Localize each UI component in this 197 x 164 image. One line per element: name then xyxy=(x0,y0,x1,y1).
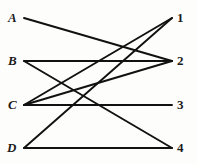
node-label-b: B xyxy=(8,54,17,67)
node-label-3: 3 xyxy=(177,98,184,111)
graph-edge xyxy=(24,18,172,148)
graph-canvas xyxy=(0,0,197,164)
node-label-d: D xyxy=(7,141,16,154)
node-label-4: 4 xyxy=(177,141,184,154)
node-label-a: A xyxy=(8,11,17,24)
graph-edge xyxy=(24,18,172,61)
node-label-1: 1 xyxy=(177,11,184,24)
edge-layer xyxy=(24,18,172,148)
node-label-2: 2 xyxy=(177,54,184,67)
node-label-c: C xyxy=(8,98,17,111)
bipartite-graph-figure: ABCD1234 xyxy=(0,0,197,164)
